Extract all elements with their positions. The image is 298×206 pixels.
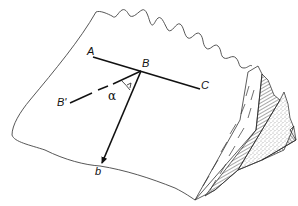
label-b-prime: B': [57, 97, 66, 108]
label-alpha: α: [108, 90, 116, 102]
block-diagram: [0, 0, 298, 206]
label-c: C: [201, 80, 209, 91]
label-b-lower: b: [95, 166, 101, 177]
angle-arc: [121, 80, 130, 90]
dip-direction-arrow: [102, 71, 141, 163]
rock-cross-section: [195, 66, 296, 200]
label-a: A: [87, 46, 94, 57]
label-b: B: [142, 58, 149, 69]
